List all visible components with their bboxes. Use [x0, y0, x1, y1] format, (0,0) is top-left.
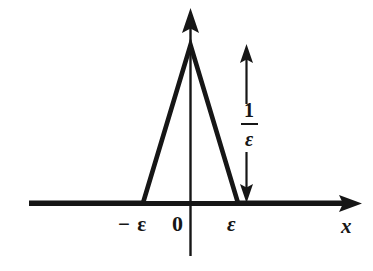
height-annotation-fraction: 1 ε — [236, 100, 262, 149]
x-tick-label-positive-epsilon: ε — [227, 214, 236, 235]
fraction-numerator: 1 — [236, 100, 262, 121]
x-tick-label-origin: 0 — [172, 213, 183, 235]
delta-function-plot — [0, 0, 373, 271]
x-tick-label-negative-epsilon: − ε — [118, 214, 147, 235]
figure-container: − ε 0 ε x 1 ε — [0, 0, 373, 271]
fraction-denominator: ε — [236, 128, 262, 149]
fraction-bar — [241, 123, 258, 125]
x-axis-label: x — [341, 216, 352, 237]
